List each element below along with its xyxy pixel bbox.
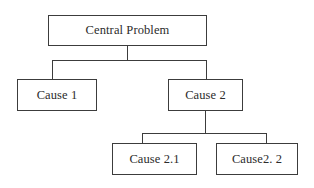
connector-drop-to-cause-2-1 <box>142 133 143 143</box>
connector-drop-to-cause-2 <box>206 60 207 79</box>
node-cause-2: Cause 2 <box>168 79 243 111</box>
connector-drop-to-cause-1 <box>52 60 53 79</box>
connector-level3-distribution-bar <box>142 133 267 134</box>
connector-level2-distribution-bar <box>52 60 207 61</box>
node-central-problem: Central Problem <box>48 15 207 46</box>
node-cause-2-1: Cause 2.1 <box>112 143 197 175</box>
node-cause-1: Cause 1 <box>17 79 97 111</box>
node-cause-2-2: Cause2. 2 <box>216 143 298 175</box>
cause-hierarchy-diagram: Central Problem Cause 1 Cause 2 Cause 2.… <box>0 0 314 188</box>
connector-cause-2-stem <box>205 111 206 133</box>
connector-central-problem-stem <box>127 46 128 60</box>
connector-drop-to-cause-2-2 <box>266 133 267 143</box>
